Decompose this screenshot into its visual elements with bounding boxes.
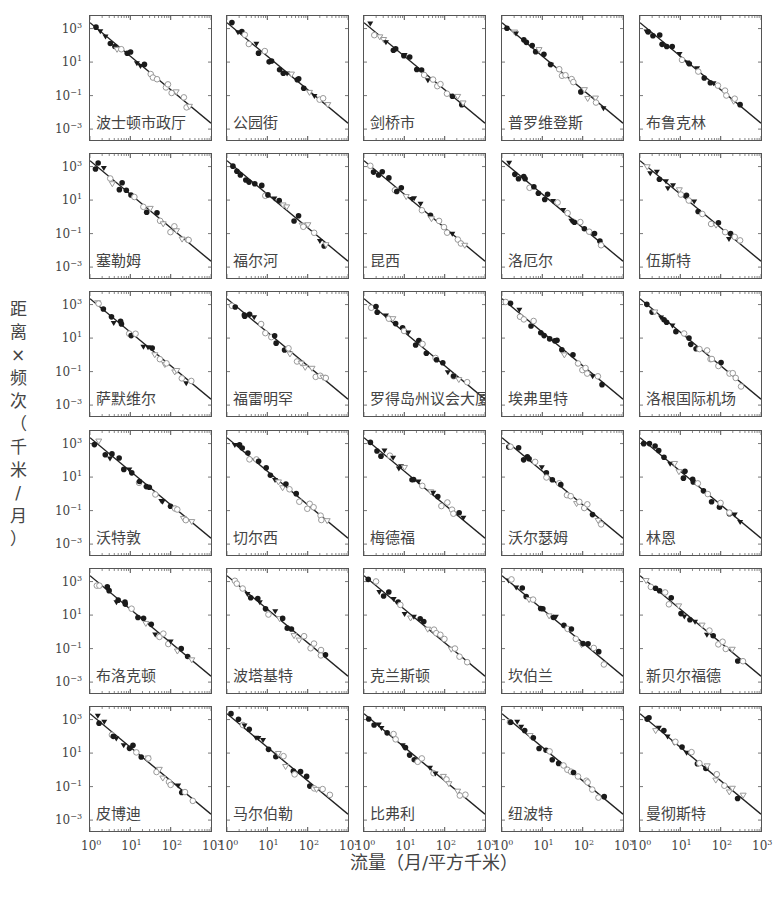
data-point bbox=[592, 231, 598, 237]
x-tick-label: 103 bbox=[752, 838, 772, 853]
data-point bbox=[740, 658, 746, 664]
y-tick-label: 10−3 bbox=[42, 259, 82, 274]
scatter-panel: 马尔伯勒 bbox=[226, 706, 349, 832]
scatter-panel: 克兰斯顿 bbox=[363, 568, 486, 694]
data-point bbox=[440, 360, 446, 366]
data-point bbox=[161, 631, 167, 637]
data-point bbox=[128, 49, 134, 55]
data-point bbox=[681, 475, 687, 481]
data-point bbox=[283, 764, 289, 769]
data-point bbox=[280, 616, 286, 622]
data-point bbox=[686, 61, 692, 67]
scatter-panel: 塞勒姆 bbox=[89, 153, 212, 279]
data-point bbox=[542, 197, 548, 203]
panel-title: 纽波特 bbox=[508, 802, 553, 823]
data-point bbox=[393, 737, 399, 743]
data-point bbox=[598, 522, 604, 528]
data-point bbox=[529, 43, 535, 49]
data-point bbox=[293, 491, 299, 497]
panel-title: 埃弗里特 bbox=[508, 387, 568, 408]
data-point bbox=[451, 511, 457, 517]
data-point bbox=[398, 602, 404, 608]
panel-title: 沃特敦 bbox=[96, 526, 141, 547]
data-point bbox=[439, 503, 445, 509]
data-point bbox=[245, 450, 251, 456]
scatter-panel: 沃特敦 bbox=[89, 430, 212, 556]
x-tick-label: 100 bbox=[81, 838, 101, 853]
y-axis-label-char: 距 bbox=[8, 298, 28, 321]
data-point bbox=[107, 457, 113, 462]
y-axis-label: 距离×频次（千米/月） bbox=[8, 298, 28, 551]
panel-title: 普罗维登斯 bbox=[508, 111, 583, 132]
data-point bbox=[585, 780, 591, 786]
y-tick-label: 103 bbox=[42, 436, 82, 451]
data-point bbox=[365, 577, 371, 583]
data-point bbox=[421, 72, 427, 78]
data-point bbox=[291, 218, 297, 224]
panel-title: 洛根国际机场 bbox=[646, 387, 736, 408]
data-point bbox=[652, 443, 658, 449]
y-tick-label: 10−3 bbox=[42, 674, 82, 689]
data-point bbox=[287, 486, 293, 492]
data-point bbox=[142, 62, 148, 68]
data-point bbox=[434, 357, 440, 363]
fit-line bbox=[227, 161, 348, 262]
scatter-panel: 伍斯特 bbox=[639, 153, 762, 279]
data-point bbox=[118, 46, 124, 52]
scatter-panel: 沃尔瑟姆 bbox=[501, 430, 624, 556]
data-point bbox=[585, 641, 591, 647]
data-point bbox=[695, 69, 701, 75]
data-point bbox=[109, 182, 115, 187]
data-point bbox=[319, 517, 325, 523]
data-point bbox=[646, 715, 652, 721]
data-point bbox=[116, 455, 122, 461]
data-point bbox=[246, 726, 252, 732]
data-point bbox=[572, 219, 578, 225]
panel-title: 克兰斯顿 bbox=[370, 664, 430, 685]
data-point bbox=[555, 200, 561, 206]
data-point bbox=[569, 626, 575, 632]
data-point bbox=[570, 352, 576, 358]
data-point bbox=[153, 492, 159, 498]
data-point bbox=[722, 229, 728, 235]
data-point bbox=[456, 510, 462, 516]
data-point bbox=[589, 787, 595, 793]
data-point bbox=[689, 749, 695, 755]
data-point bbox=[641, 441, 647, 447]
data-point bbox=[256, 50, 262, 56]
data-point bbox=[281, 753, 287, 759]
data-point bbox=[327, 792, 333, 798]
data-point bbox=[435, 494, 441, 500]
data-point bbox=[732, 96, 738, 102]
data-point bbox=[129, 470, 135, 476]
data-point bbox=[374, 309, 380, 315]
data-point bbox=[108, 41, 114, 47]
data-point bbox=[516, 445, 522, 451]
data-point bbox=[141, 615, 147, 621]
data-point bbox=[419, 207, 425, 213]
data-point bbox=[402, 612, 408, 617]
y-axis-label-char: 频 bbox=[8, 367, 28, 390]
data-point bbox=[165, 82, 171, 88]
panel-title: 萨默维尔 bbox=[96, 387, 156, 408]
data-point bbox=[584, 371, 590, 377]
chart-figure: 距离×频次（千米/月） 流量（月/平方千米） 波士顿市政厅公园街剑桥市普罗维登斯… bbox=[0, 0, 784, 907]
data-point bbox=[386, 589, 392, 595]
data-point bbox=[115, 597, 121, 603]
data-point bbox=[704, 348, 710, 354]
data-point bbox=[391, 731, 397, 737]
data-point bbox=[681, 614, 687, 619]
data-point bbox=[188, 378, 194, 384]
y-tick-label: 10−3 bbox=[42, 121, 82, 136]
data-point bbox=[113, 737, 119, 742]
data-point bbox=[109, 314, 115, 320]
data-point bbox=[117, 187, 123, 193]
x-tick-label: 102 bbox=[436, 838, 456, 853]
data-point bbox=[93, 24, 99, 30]
data-point bbox=[149, 345, 155, 351]
data-point bbox=[366, 716, 372, 722]
y-tick-label: 10−1 bbox=[42, 779, 82, 794]
scatter-panel: 洛根国际机场 bbox=[639, 291, 762, 417]
x-tick-label: 101 bbox=[121, 838, 141, 853]
data-point bbox=[96, 301, 102, 307]
